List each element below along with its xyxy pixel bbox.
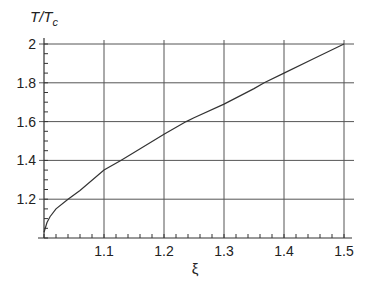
y-tick-label: 1.4: [17, 152, 37, 168]
y-tick-label: 1.8: [17, 75, 37, 91]
gridlines: [39, 40, 354, 238]
data-curve: [44, 44, 344, 232]
x-axis-label: ξ: [192, 260, 199, 277]
y-axis-label: T/Tc: [30, 8, 59, 28]
y-tick-label: 1.2: [17, 191, 37, 207]
x-tick-label: 1.5: [334, 243, 354, 259]
x-tick-label: 1.2: [154, 243, 174, 259]
chart: 1.11.21.31.41.51.21.41.61.82 T/Tc ξ: [0, 0, 370, 290]
x-tick-label: 1.4: [274, 243, 294, 259]
axes: [38, 38, 352, 238]
y-tick-label: 2: [28, 36, 36, 52]
x-tick-label: 1.3: [214, 243, 234, 259]
y-tick-label: 1.6: [17, 114, 37, 130]
x-tick-label: 1.1: [94, 243, 114, 259]
tick-labels: 1.11.21.31.41.51.21.41.61.82: [17, 36, 354, 259]
